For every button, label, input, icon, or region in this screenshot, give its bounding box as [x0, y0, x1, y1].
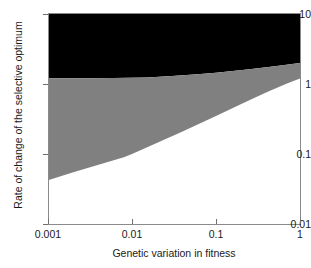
plot-canvas — [48, 14, 300, 224]
x-tick-label-1: 1 — [270, 229, 311, 239]
x-tick-mark-0.1 — [216, 219, 217, 224]
axis-spine-bottom — [48, 224, 301, 225]
y-tick-label-1: 1 — [273, 79, 311, 89]
x-tick-mark-0.01 — [132, 219, 133, 224]
axis-spine-left — [48, 13, 49, 225]
y-tick-mark-0.01 — [43, 224, 48, 225]
x-tick-label-0.1: 0.1 — [186, 229, 246, 239]
x-axis-title: Genetic variation in fitness — [48, 247, 300, 259]
x-tick-mark-0.001 — [48, 219, 49, 224]
chart-figure: 10 1 0.1 0.01 0.001 0.01 0.1 1 Genetic v… — [0, 0, 311, 268]
plot-area — [48, 14, 300, 224]
y-tick-mark-0.1 — [43, 154, 48, 155]
axis-spine-right — [300, 13, 301, 225]
y-tick-mark-10 — [43, 14, 48, 15]
axis-spine-top — [48, 13, 301, 14]
y-tick-label-10: 10 — [273, 9, 311, 19]
x-tick-mark-1 — [300, 219, 301, 224]
y-tick-label-0.1: 0.1 — [273, 149, 311, 159]
y-tick-label-0.01: 0.01 — [273, 219, 311, 229]
x-tick-label-0.01: 0.01 — [102, 229, 162, 239]
x-tick-label-0.001: 0.001 — [18, 229, 78, 239]
y-tick-mark-1 — [43, 84, 48, 85]
y-axis-title: Rate of change of the selective optimum — [12, 0, 24, 230]
